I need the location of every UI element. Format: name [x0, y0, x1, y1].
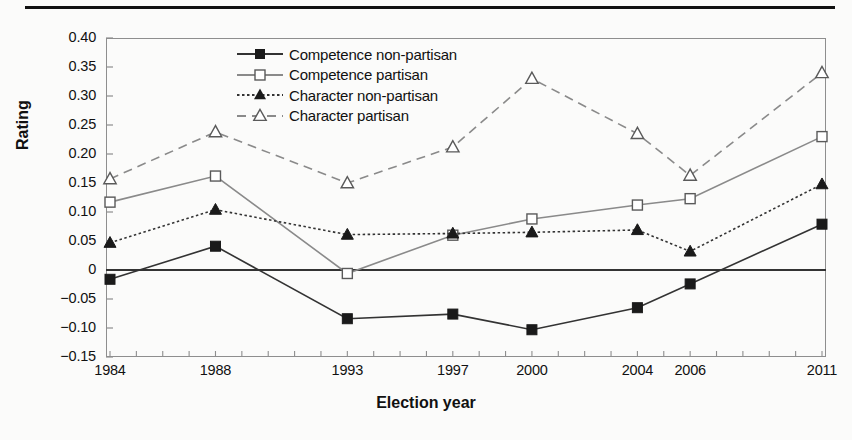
series-4 [104, 66, 828, 187]
legend-item-1: Competence non-partisan [236, 44, 457, 65]
data-point-marker [210, 241, 220, 251]
x-tick-label: 1993 [324, 362, 370, 378]
y-tick-label: 0.40 [38, 29, 96, 45]
y-tick-label: 0.05 [38, 232, 96, 248]
data-point-marker [342, 268, 352, 278]
legend-label: Competence partisan [289, 66, 428, 83]
x-tick-label: 2000 [509, 362, 555, 378]
y-tick-label: 0.10 [38, 203, 96, 219]
data-point-marker [527, 325, 537, 335]
axis-ticks [106, 38, 822, 357]
data-point-marker [817, 219, 827, 229]
y-tick-label: 0.30 [38, 87, 96, 103]
x-axis-title: Election year [0, 394, 852, 412]
legend-label: Competence non-partisan [289, 46, 457, 63]
data-point-marker [104, 237, 116, 248]
x-tick-label: 1984 [87, 362, 133, 378]
data-point-marker [684, 169, 696, 180]
data-point-marker [816, 178, 828, 189]
data-point-marker [448, 309, 458, 319]
data-point-marker [105, 197, 115, 207]
data-point-marker [684, 245, 696, 256]
data-point-marker [210, 171, 220, 181]
x-tick-label: 1997 [430, 362, 476, 378]
y-tick-label: −0.05 [38, 290, 96, 306]
y-tick-label: 0.25 [38, 116, 96, 132]
legend-marker-icon [236, 45, 284, 63]
legend-item-3: Character non-partisan [236, 85, 457, 106]
data-point-marker [817, 132, 827, 142]
legend-marker-icon [236, 86, 284, 104]
series-1 [105, 219, 827, 335]
data-point-marker [816, 66, 828, 77]
data-point-marker [447, 141, 459, 152]
data-point-marker [631, 224, 643, 235]
figure-container: 0.400.350.300.250.200.150.100.050−0.05−0… [0, 0, 852, 440]
x-tick-label: 1988 [192, 362, 238, 378]
legend-item-2: Competence partisan [236, 65, 457, 86]
data-point-marker [631, 127, 643, 138]
data-point-marker [342, 314, 352, 324]
y-axis-title: Rating [14, 100, 32, 150]
legend-item-4: Character partisan [236, 106, 457, 127]
data-point-marker [632, 303, 642, 313]
data-point-marker [209, 126, 221, 137]
y-tick-label: 0 [38, 261, 96, 277]
legend-label: Character partisan [289, 107, 409, 124]
data-point-marker [685, 279, 695, 289]
data-point-marker [527, 214, 537, 224]
y-tick-label: 0.20 [38, 145, 96, 161]
x-tick-label: 2011 [799, 362, 845, 378]
data-point-marker [104, 173, 116, 184]
data-series-layer [104, 66, 828, 334]
x-tick-label: 2004 [614, 362, 660, 378]
chart-legend: Competence non-partisanCompetence partis… [236, 44, 457, 126]
data-point-marker [526, 72, 538, 83]
data-point-marker [209, 203, 221, 214]
y-tick-label: 0.35 [38, 58, 96, 74]
data-point-marker [526, 226, 538, 237]
legend-marker-icon [236, 66, 284, 84]
y-tick-label: 0.15 [38, 174, 96, 190]
data-point-marker [105, 274, 115, 284]
legend-marker-icon [236, 107, 284, 125]
x-tick-label: 2006 [667, 362, 713, 378]
data-point-marker [685, 194, 695, 204]
data-point-marker [632, 200, 642, 210]
legend-label: Character non-partisan [289, 87, 438, 104]
y-tick-label: −0.10 [38, 319, 96, 335]
